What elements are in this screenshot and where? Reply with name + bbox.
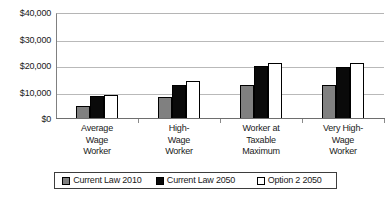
bar-current-law-2010: [158, 97, 172, 120]
bar-current-law-2010: [240, 85, 254, 119]
category-label-very-high-wage-worker: Very High- Wage Worker: [302, 123, 384, 158]
category-label-high-wage-worker: High- Wage Worker: [138, 123, 220, 158]
legend-label: Current Law 2010: [73, 176, 141, 185]
bar-group-worker-at-taxable-maximum: [220, 13, 302, 119]
bar-current-law-2050: [90, 96, 104, 119]
category-label-worker-at-taxable-maximum: Worker at Taxable Maximum: [220, 123, 302, 158]
bar-group-average-wage-worker: [56, 13, 138, 119]
bar-group-high-wage-worker: [138, 13, 220, 119]
bar-groups: [56, 13, 384, 119]
category-label-line: Wage: [302, 135, 384, 147]
category-label-line: Average: [56, 123, 138, 135]
legend-swatch-icon: [156, 177, 164, 185]
category-label-line: Very High-: [302, 123, 384, 135]
y-tick-label: $20,000: [20, 62, 51, 71]
bar-current-law-2050: [254, 66, 268, 119]
bar-option-2-2050: [268, 63, 282, 119]
category-label-line: Worker at: [220, 123, 302, 135]
legend-label: Option 2 2050: [268, 176, 322, 185]
legend-swatch-icon: [62, 177, 70, 185]
y-tick-label: $10,000: [20, 89, 51, 98]
bar-current-law-2010: [76, 106, 90, 120]
legend-swatch-icon: [257, 177, 265, 185]
bar-current-law-2010: [322, 85, 336, 119]
category-label-line: Worker: [302, 146, 384, 158]
legend-item-current-law-2050: Current Law 2050: [149, 176, 243, 185]
category-label-line: Worker: [138, 146, 220, 158]
y-tick-label: $0: [41, 115, 51, 124]
category-label-line: Taxable: [220, 135, 302, 147]
bar-option-2-2050: [186, 81, 200, 119]
category-label-line: High-: [138, 123, 220, 135]
category-axis-tick: [384, 119, 385, 123]
chart-legend: Current Law 2010 Current Law 2050 Option…: [54, 172, 337, 189]
category-label-average-wage-worker: Average Wage Worker: [56, 123, 138, 158]
x-axis-labels: Average Wage Worker High- Wage Worker Wo…: [56, 123, 384, 158]
bar-group-very-high-wage-worker: [302, 13, 384, 119]
legend-item-option-2-2050: Option 2 2050: [242, 176, 336, 185]
legend-label: Current Law 2050: [167, 176, 235, 185]
category-label-line: Wage: [138, 135, 220, 147]
category-label-line: Wage: [56, 135, 138, 147]
category-label-line: Maximum: [220, 146, 302, 158]
bar-chart: $40,000 $30,000 $20,000 $10,000 $0: [0, 0, 391, 201]
bar-current-law-2050: [336, 67, 350, 120]
y-axis-labels: $40,000 $30,000 $20,000 $10,000 $0: [0, 0, 54, 201]
category-label-line: Worker: [56, 146, 138, 158]
y-tick-label: $30,000: [20, 36, 51, 45]
bar-option-2-2050: [104, 95, 118, 119]
bar-current-law-2050: [172, 85, 186, 119]
bar-option-2-2050: [350, 63, 364, 119]
legend-item-current-law-2010: Current Law 2010: [55, 176, 149, 185]
y-tick-label: $40,000: [20, 9, 51, 18]
